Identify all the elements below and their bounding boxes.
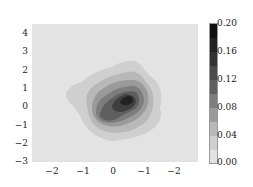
y-tick-label: 1 [22, 83, 28, 93]
colorbar-tick-label: 0.12 [217, 74, 237, 84]
colorbar [209, 23, 218, 164]
colorbar-tick-label: 0.16 [217, 46, 237, 56]
x-tick-label: −1 [73, 166, 93, 176]
x-tick-label: −2 [42, 166, 62, 176]
colorbar-tick-label: 0.04 [217, 130, 237, 140]
colorbar-tick-label: 0.08 [217, 102, 237, 112]
colorbar-gradient [210, 24, 217, 163]
colorbar-tick-label: 0.00 [217, 157, 237, 167]
y-tick-label: −1 [15, 120, 28, 130]
y-tick-label: 2 [22, 65, 28, 75]
density-contours [32, 24, 198, 162]
y-tick-label: −3 [15, 156, 28, 166]
y-tick-label: −2 [15, 138, 28, 148]
y-tick-label: 0 [22, 101, 28, 111]
x-tick-label: −1 [134, 166, 154, 176]
y-tick-label: 4 [22, 28, 28, 38]
y-tick-label: 3 [22, 46, 28, 56]
x-tick-label: −2 [164, 166, 184, 176]
x-tick-label: 0 [103, 166, 123, 176]
colorbar-tick-label: 0.20 [217, 18, 237, 28]
plot-area [32, 24, 198, 162]
